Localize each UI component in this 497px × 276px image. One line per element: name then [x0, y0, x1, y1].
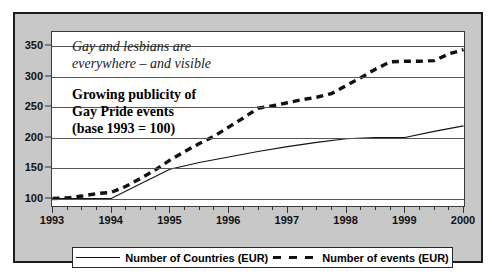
x-tick-minor: [375, 207, 376, 210]
annotation-subtitle-line-3: (base 1993 = 100): [72, 120, 322, 137]
x-tick-1994: [111, 207, 112, 213]
x-tick-minor: [81, 207, 82, 210]
x-tick-1997: [287, 207, 288, 213]
x-tick-minor: [448, 207, 449, 210]
x-tick-minor: [419, 207, 420, 210]
x-axis-label-1999: 1999: [392, 214, 416, 226]
annotation-subtitle: Growing publicity of Gay Pride events (b…: [72, 86, 322, 137]
chart-screenshot: 350 300 250 200 150 100: [0, 0, 497, 276]
legend: Number of Countries (EUR) Number of even…: [72, 247, 453, 268]
x-axis-label-2000: 2000: [451, 214, 475, 226]
y-axis-label-200: 200: [25, 131, 43, 143]
x-tick-1999: [404, 207, 405, 213]
x-tick-minor: [213, 207, 214, 210]
gridline-100: [52, 199, 464, 200]
gridline-200: [52, 138, 464, 139]
x-tick-minor: [316, 207, 317, 210]
legend-label-countries: Number of Countries (EUR): [125, 252, 268, 264]
annotation-tagline-line-2: everywhere – and visible: [72, 55, 322, 72]
x-axis-label-1993: 1993: [40, 214, 64, 226]
x-tick-minor: [67, 207, 68, 210]
x-axis-label-1998: 1998: [333, 214, 357, 226]
x-axis-label-1997: 1997: [275, 214, 299, 226]
x-tick-minor: [302, 207, 303, 210]
x-tick-minor: [272, 207, 273, 210]
x-tick-minor: [360, 207, 361, 210]
y-axis-label-350: 350: [25, 39, 43, 51]
x-axis-label-1995: 1995: [157, 214, 181, 226]
x-tick-1996: [228, 207, 229, 213]
x-tick-minor: [243, 207, 244, 210]
annotation-subtitle-line-1: Growing publicity of: [72, 86, 322, 103]
solid-line-icon: [76, 257, 120, 258]
x-tick-1993: [52, 207, 53, 213]
x-tick-1998: [346, 207, 347, 213]
gridline-150: [52, 168, 464, 169]
x-tick-minor: [331, 207, 332, 210]
legend-item-events: Number of events (EUR): [268, 252, 449, 264]
y-axis-label-150: 150: [25, 161, 43, 173]
x-tick-minor: [125, 207, 126, 210]
x-tick-minor: [140, 207, 141, 210]
x-tick-minor: [155, 207, 156, 210]
gridline-300: [52, 77, 464, 78]
plot-area: Gay and lesbians are everywhere – and vi…: [51, 31, 465, 207]
legend-item-countries: Number of Countries (EUR): [76, 252, 268, 264]
x-tick-1995: [169, 207, 170, 213]
annotation-tagline-line-1: Gay and lesbians are: [72, 38, 322, 55]
x-axis-label-1996: 1996: [216, 214, 240, 226]
x-tick-minor: [434, 207, 435, 210]
dashed-line-icon: [273, 256, 317, 259]
x-tick-minor: [184, 207, 185, 210]
y-axis: 350 300 250 200 150 100: [15, 14, 51, 224]
x-axis-ticks: [51, 207, 465, 214]
annotation-tagline: Gay and lesbians are everywhere – and vi…: [72, 38, 322, 72]
y-axis-label-250: 250: [25, 100, 43, 112]
y-axis-label-100: 100: [25, 192, 43, 204]
x-tick-2000: [463, 207, 464, 213]
chart-frame: 350 300 250 200 150 100: [13, 12, 483, 263]
x-tick-minor: [96, 207, 97, 210]
x-tick-minor: [390, 207, 391, 210]
x-axis: 19931994199519961997199819992000: [51, 214, 465, 232]
legend-label-events: Number of events (EUR): [322, 252, 449, 264]
plot-inner: Gay and lesbians are everywhere – and vi…: [52, 32, 464, 206]
x-axis-label-1994: 1994: [98, 214, 122, 226]
annotation-subtitle-line-2: Gay Pride events: [72, 103, 322, 120]
y-axis-label-300: 300: [25, 70, 43, 82]
x-tick-minor: [199, 207, 200, 210]
x-tick-minor: [258, 207, 259, 210]
